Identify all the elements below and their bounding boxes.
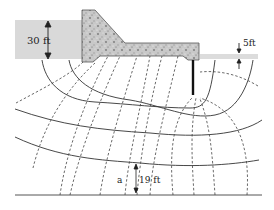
point-a-depth-label: 19 ft (139, 175, 161, 185)
concrete-dam (82, 10, 199, 62)
downstream-head-label: 5ft (243, 38, 256, 48)
point-a-label: a (117, 175, 123, 185)
upstream-head-label: 30 ft (27, 35, 51, 46)
flow-net-diagram: 30 ft 5ft a 19 ft (0, 0, 274, 210)
downstream-water (200, 54, 258, 59)
equipotential-lines (16, 56, 258, 195)
point-a-depth-arrow (134, 164, 138, 193)
